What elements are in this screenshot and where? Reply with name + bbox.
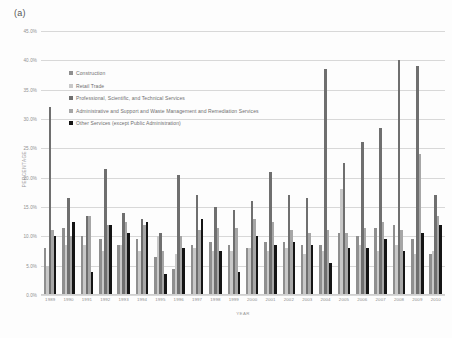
legend-swatch-icon <box>69 96 73 100</box>
bar-group <box>316 31 334 295</box>
x-axis-tick-label: 2010 <box>427 297 445 309</box>
bar-group <box>371 31 389 295</box>
y-axis-tick-label: 0.0% <box>26 293 37 298</box>
bar <box>91 272 94 295</box>
y-axis-tick-label: 35.0% <box>23 87 37 92</box>
gridline: 0.0% <box>41 295 445 296</box>
x-axis-tick-label: 1989 <box>41 297 59 309</box>
x-axis-tick-label: 1990 <box>59 297 77 309</box>
bar-group <box>298 31 316 295</box>
y-axis-tick-label: 20.0% <box>23 175 37 180</box>
legend-item[interactable]: Construction <box>69 70 259 76</box>
bar <box>366 248 369 295</box>
legend-label: Construction <box>76 70 105 76</box>
y-axis-tick-label: 45.0% <box>23 29 37 34</box>
bar <box>439 225 442 295</box>
y-axis-tick-label: 30.0% <box>23 117 37 122</box>
legend-item[interactable]: Administrative and Support and Waste Man… <box>69 108 259 114</box>
bar <box>256 236 259 295</box>
legend-swatch-icon <box>69 71 73 75</box>
bar-group <box>335 31 353 295</box>
bar <box>127 233 130 295</box>
x-axis-title: YEAR <box>41 311 445 316</box>
bar-group <box>408 31 426 295</box>
bar <box>54 236 57 295</box>
x-axis-tick-label: 1993 <box>114 297 132 309</box>
x-axis-tick-label: 2001 <box>261 297 279 309</box>
panel-label: (a) <box>14 8 26 18</box>
x-axis-tick-label: 2006 <box>353 297 371 309</box>
y-axis-tick-label: 15.0% <box>23 205 37 210</box>
legend-label: Professional, Scientific, and Technical … <box>76 95 185 101</box>
legend-item[interactable]: Retail Trade <box>69 83 259 89</box>
x-axis-tick-label: 1992 <box>96 297 114 309</box>
bar <box>238 272 241 295</box>
bar-group <box>261 31 279 295</box>
x-axis-tick-label: 2008 <box>390 297 408 309</box>
legend-label: Administrative and Support and Waste Man… <box>76 108 259 114</box>
bar <box>201 219 204 295</box>
x-axis-tick-label: 1994 <box>133 297 151 309</box>
bar <box>403 251 406 295</box>
x-axis-tick-label: 2007 <box>371 297 389 309</box>
x-axis-tick-label: 2004 <box>316 297 334 309</box>
legend-swatch-icon <box>69 84 73 88</box>
bar <box>274 245 277 295</box>
bar <box>329 263 332 295</box>
x-axis-tick-labels: 1989199019911992199319941995199619971998… <box>41 297 445 309</box>
bar <box>146 222 149 295</box>
bar <box>384 239 387 295</box>
y-axis-tick-label: 25.0% <box>23 146 37 151</box>
legend-label: Other Services (except Public Administra… <box>76 120 181 126</box>
y-axis-tick-label: 40.0% <box>23 58 37 63</box>
legend-item[interactable]: Professional, Scientific, and Technical … <box>69 95 259 101</box>
figure-panel: (a) PERCENTAGE 45.0%40.0%35.0%30.0%25.0%… <box>0 0 452 338</box>
bar-group <box>427 31 445 295</box>
x-axis-tick-label: 2000 <box>243 297 261 309</box>
bar-group <box>41 31 59 295</box>
x-axis-tick-label: 2003 <box>298 297 316 309</box>
bar-group <box>353 31 371 295</box>
y-axis-tick-label: 5.0% <box>26 263 37 268</box>
bar <box>219 251 222 295</box>
x-axis-tick-label: 1999 <box>225 297 243 309</box>
bar-group <box>280 31 298 295</box>
bar <box>182 248 185 295</box>
legend: ConstructionRetail TradeProfessional, Sc… <box>69 70 259 133</box>
y-axis-tick-label: 10.0% <box>23 234 37 239</box>
x-axis-line <box>41 294 445 295</box>
x-axis-tick-label: 1997 <box>188 297 206 309</box>
x-axis-tick-label: 2009 <box>408 297 426 309</box>
bar <box>164 274 167 295</box>
legend-swatch-icon <box>69 109 73 113</box>
y-axis-title: PERCENTAGE <box>22 151 27 187</box>
bar <box>421 233 424 295</box>
bar <box>72 222 75 295</box>
bar <box>293 242 296 295</box>
legend-swatch-icon <box>69 121 73 125</box>
x-axis-tick-label: 1998 <box>206 297 224 309</box>
legend-item[interactable]: Other Services (except Public Administra… <box>69 120 259 126</box>
x-axis-tick-label: 2005 <box>335 297 353 309</box>
x-axis-tick-label: 2002 <box>280 297 298 309</box>
x-axis-tick-label: 1996 <box>170 297 188 309</box>
bar-group <box>390 31 408 295</box>
x-axis-tick-label: 1991 <box>78 297 96 309</box>
legend-label: Retail Trade <box>76 83 104 89</box>
bar <box>109 225 112 295</box>
x-axis-tick-label: 1995 <box>151 297 169 309</box>
bar <box>348 248 351 295</box>
bar <box>311 245 314 295</box>
